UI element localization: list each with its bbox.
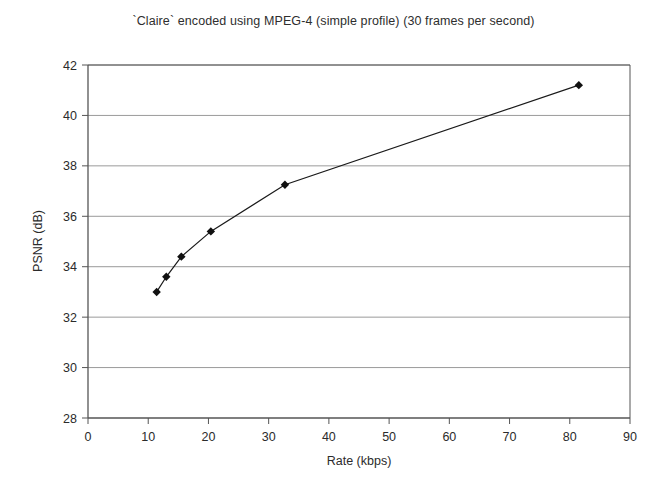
x-tick-label: 80 (563, 430, 577, 444)
x-tick-label: 20 (201, 430, 215, 444)
y-tick-label: 38 (63, 159, 77, 173)
x-axis-ticks (88, 418, 630, 424)
x-tick-label: 10 (141, 430, 155, 444)
chart-figure: `Claire` encoded using MPEG-4 (simple pr… (0, 0, 667, 496)
x-tick-label: 70 (503, 430, 517, 444)
series-line (157, 85, 579, 292)
x-tick-label: 30 (262, 430, 276, 444)
x-tick-label: 90 (623, 430, 637, 444)
y-tick-label: 28 (63, 412, 77, 426)
data-point-marker (152, 288, 160, 296)
y-tick-label: 42 (63, 59, 77, 73)
grid-lines (88, 65, 630, 368)
x-axis-tick-labels: 0102030405060708090 (85, 430, 637, 444)
data-point-marker (575, 81, 583, 89)
y-axis-title: PSNR (dB) (31, 210, 45, 272)
data-point-markers (152, 81, 583, 296)
y-axis-ticks (82, 65, 88, 418)
x-tick-label: 50 (382, 430, 396, 444)
x-tick-label: 40 (322, 430, 336, 444)
plot-frame (88, 65, 630, 418)
y-tick-label: 40 (63, 109, 77, 123)
data-point-marker (281, 181, 289, 189)
y-tick-label: 32 (63, 311, 77, 325)
chart-plot-area: 0102030405060708090 2830323436384042 Rat… (0, 0, 667, 496)
y-tick-label: 36 (63, 210, 77, 224)
y-tick-label: 34 (63, 260, 77, 274)
x-tick-label: 0 (85, 430, 92, 444)
y-tick-label: 30 (63, 361, 77, 375)
data-series-line (157, 85, 579, 292)
x-axis-title: Rate (kbps) (327, 454, 392, 468)
y-axis-tick-labels: 2830323436384042 (63, 59, 77, 426)
x-tick-label: 60 (442, 430, 456, 444)
